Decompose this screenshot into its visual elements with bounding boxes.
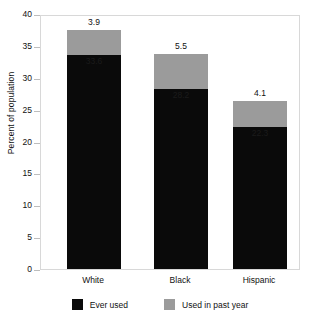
legend-entry-ever-used[interactable]: Ever used xyxy=(72,299,128,310)
legend-swatch-icon-used-in-past-year xyxy=(164,299,175,310)
bar-label-ever-used-black: 28.2 xyxy=(154,90,208,100)
bar-label-ever-used-hispanic: 22.3 xyxy=(233,128,287,138)
bar-segment-ever-used-white[interactable]: 33.6 xyxy=(67,55,121,269)
y-tick-label-20: 20 xyxy=(23,137,32,147)
bar-label-used-in-past-year-white: 3.9 xyxy=(67,17,121,27)
x-tick-label-black: Black xyxy=(135,275,225,285)
y-tick-mark-0 xyxy=(34,270,40,271)
y-tick-label-35: 35 xyxy=(23,41,32,51)
chart-legend: Ever used Used in past year xyxy=(0,299,320,310)
bar-group-hispanic[interactable]: 4.1 22.3 xyxy=(233,101,287,269)
y-tick-label-15: 15 xyxy=(23,168,32,178)
bar-label-ever-used-white: 33.6 xyxy=(67,56,121,66)
legend-label-used-in-past-year: Used in past year xyxy=(182,300,248,310)
bar-segment-ever-used-black[interactable]: 28.2 xyxy=(154,89,208,269)
plot-area: 3.9 33.6 5.5 28.2 4.1 22.3 xyxy=(40,15,300,270)
bar-segment-used-in-past-year-black[interactable]: 5.5 xyxy=(154,54,208,89)
x-tick-label-white: White xyxy=(48,275,138,285)
legend-entry-used-in-past-year[interactable]: Used in past year xyxy=(164,299,248,310)
x-tick-label-hispanic: Hispanic xyxy=(214,275,304,285)
y-tick-label-25: 25 xyxy=(23,105,32,115)
chart-figure: Percent of population 40 35 30 25 20 15 … xyxy=(0,0,320,324)
y-tick-label-30: 30 xyxy=(23,73,32,83)
y-axis-title: Percent of population xyxy=(6,43,16,183)
y-tick-label-0: 0 xyxy=(27,264,32,274)
y-tick-label-10: 10 xyxy=(23,200,32,210)
legend-label-ever-used: Ever used xyxy=(90,300,128,310)
bar-label-used-in-past-year-black: 5.5 xyxy=(154,41,208,51)
y-tick-label-40: 40 xyxy=(23,9,32,19)
bar-label-used-in-past-year-hispanic: 4.1 xyxy=(233,88,287,98)
bar-group-black[interactable]: 5.5 28.2 xyxy=(154,54,208,269)
bar-segment-used-in-past-year-hispanic[interactable]: 4.1 xyxy=(233,101,287,127)
bar-group-white[interactable]: 3.9 33.6 xyxy=(67,30,121,269)
legend-swatch-icon-ever-used xyxy=(72,299,83,310)
bar-segment-ever-used-hispanic[interactable]: 22.3 xyxy=(233,127,287,269)
bar-segment-used-in-past-year-white[interactable]: 3.9 xyxy=(67,30,121,55)
y-tick-label-5: 5 xyxy=(27,232,32,242)
